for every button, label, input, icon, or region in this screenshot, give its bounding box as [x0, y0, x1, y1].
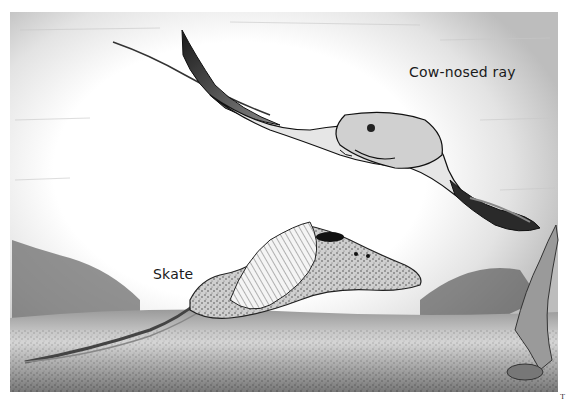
ray-eye — [367, 124, 375, 132]
skate-label: Skate — [153, 266, 193, 282]
seafloor-texture — [10, 330, 558, 392]
rock-right — [507, 364, 543, 380]
underwater-illustration — [0, 0, 569, 403]
cow-nosed-ray-label: Cow-nosed ray — [409, 64, 516, 80]
page-mark: T — [560, 393, 565, 401]
